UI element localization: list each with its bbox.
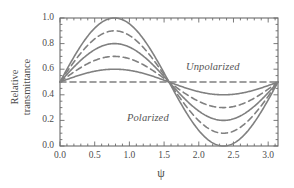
x-tick-label: 1.5: [151, 150, 177, 160]
y-tick-label: 0.2: [30, 114, 54, 124]
y-axis-title: Relative transmittance: [0, 14, 30, 146]
annotation-polarized: Polarized: [127, 112, 169, 123]
x-tick-label: 2.5: [220, 150, 246, 160]
x-tick-label: 1.0: [116, 150, 142, 160]
y-tick-label: 0.6: [30, 63, 54, 73]
annotation-unpolarized: Unpolarized: [186, 61, 240, 72]
y-tick-label: 0.4: [30, 89, 54, 99]
x-tick-label: 0.0: [47, 150, 73, 160]
y-tick-label: 1.0: [30, 12, 54, 22]
y-tick-label: 0.0: [30, 140, 54, 150]
x-axis-title-text: ψ: [157, 166, 165, 180]
x-tick-label: 0.5: [82, 150, 108, 160]
x-axis-title: ψ: [0, 166, 294, 181]
relative-transmittance-chart: Relative transmittance ψ 0.00.20.40.60.8…: [0, 0, 294, 188]
x-tick-label: 2.0: [186, 150, 212, 160]
y-tick-label: 0.8: [30, 38, 54, 48]
x-tick-label: 3.0: [255, 150, 281, 160]
